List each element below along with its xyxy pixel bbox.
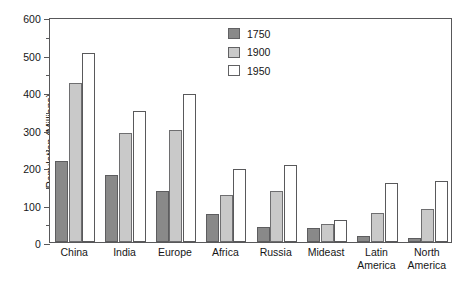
bar: [257, 227, 270, 242]
bar: [408, 238, 421, 242]
x-axis-tick-label: Europe: [158, 246, 192, 259]
legend-item: 1950: [228, 63, 270, 78]
bar: [206, 214, 219, 242]
x-axis-tick-label-line: North: [408, 246, 447, 259]
legend-item: 1900: [228, 45, 270, 60]
y-axis-tick-label: 500: [23, 51, 41, 63]
x-axis-tick-label: LatinAmerica: [357, 246, 396, 271]
bar: [233, 169, 246, 242]
y-axis-tick-major: [44, 207, 50, 208]
y-axis-tick-major: [44, 19, 50, 20]
y-axis-tick-major: [44, 244, 50, 245]
x-axis-tick-label: NorthAmerica: [408, 246, 447, 271]
bar-group: [352, 19, 402, 242]
x-axis-tick-label-line: America: [408, 259, 447, 272]
bar: [371, 213, 384, 242]
bar: [307, 228, 320, 242]
legend-swatch: [228, 47, 240, 58]
bar-group: [403, 19, 453, 242]
bar: [421, 209, 434, 242]
y-axis-tick-label: 0: [35, 238, 41, 250]
x-axis-tick-label-line: China: [60, 246, 87, 259]
bar: [220, 195, 233, 242]
legend-label: 1750: [247, 28, 270, 40]
bar: [284, 165, 297, 242]
bar: [105, 175, 118, 243]
bar-group: [100, 19, 150, 242]
bar: [119, 133, 132, 242]
y-axis-tick-minor: [46, 75, 50, 76]
chart-legend: 175019001950: [228, 26, 270, 82]
legend-label: 1900: [247, 46, 270, 58]
bar: [169, 130, 182, 243]
y-axis-tick-label: 400: [23, 88, 41, 100]
y-axis-tick-label: 200: [23, 163, 41, 175]
bar: [183, 94, 196, 242]
bar-chart: Population (Millions) 010020030040050060…: [0, 0, 459, 282]
x-axis-tick-label-line: Latin: [357, 246, 396, 259]
bar: [270, 191, 283, 242]
bar: [321, 224, 334, 242]
bar-group: [50, 19, 100, 242]
bar: [435, 181, 448, 242]
x-axis-tick-label-line: Russia: [260, 246, 292, 259]
y-axis-tick-major: [44, 132, 50, 133]
bar: [357, 236, 370, 242]
bar-group: [151, 19, 201, 242]
bar: [69, 83, 82, 242]
x-axis-tick-label-line: Africa: [212, 246, 239, 259]
bar: [334, 220, 347, 243]
y-axis-tick-label: 300: [23, 126, 41, 138]
bar-group: [302, 19, 352, 242]
x-axis-tick-label-line: Mideast: [308, 246, 345, 259]
bar: [133, 111, 146, 242]
x-axis-tick-label: China: [60, 246, 87, 259]
x-axis-tick-label-line: America: [357, 259, 396, 272]
y-axis-tick-label: 100: [23, 201, 41, 213]
y-axis-tick-minor: [46, 150, 50, 151]
x-axis-tick-label: India: [113, 246, 136, 259]
y-axis-tick-minor: [46, 38, 50, 39]
legend-swatch: [228, 28, 240, 39]
x-axis-tick-label: Mideast: [308, 246, 345, 259]
x-axis-tick-label: Russia: [260, 246, 292, 259]
bar: [385, 183, 398, 242]
y-axis-tick-label: 600: [23, 13, 41, 25]
legend-label: 1950: [247, 65, 270, 77]
x-axis-tick-label-line: India: [113, 246, 136, 259]
y-axis-tick-minor: [46, 225, 50, 226]
bar: [156, 191, 169, 242]
y-axis-tick-minor: [46, 113, 50, 114]
y-axis-tick-major: [44, 57, 50, 58]
bar: [82, 53, 95, 242]
y-axis-tick-major: [44, 94, 50, 95]
x-axis-tick-label: Africa: [212, 246, 239, 259]
x-axis-tick-label-line: Europe: [158, 246, 192, 259]
legend-item: 1750: [228, 26, 270, 41]
bar: [55, 161, 68, 242]
y-axis-tick-minor: [46, 188, 50, 189]
y-axis-tick-major: [44, 169, 50, 170]
legend-swatch: [228, 65, 240, 76]
